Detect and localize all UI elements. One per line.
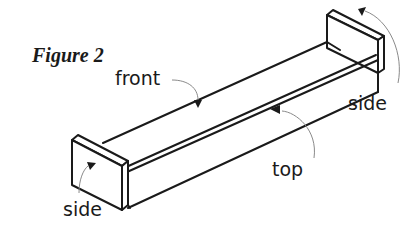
front-arrow-icon	[194, 100, 202, 108]
label-side-right-text: side	[348, 92, 387, 114]
figure-diagram: Figure 2	[0, 0, 411, 226]
label-side-left-text: side	[63, 198, 102, 220]
label-top-text: top	[272, 158, 303, 180]
label-front-text: front	[115, 67, 160, 89]
label-top: top	[270, 105, 314, 180]
left-side-end-face	[122, 161, 128, 210]
side-right-arrow-icon	[358, 7, 366, 16]
figure-caption: Figure 2	[31, 44, 104, 67]
shelf-drawing	[72, 10, 384, 210]
label-front: front	[115, 67, 202, 108]
front-leader-line	[172, 80, 198, 100]
